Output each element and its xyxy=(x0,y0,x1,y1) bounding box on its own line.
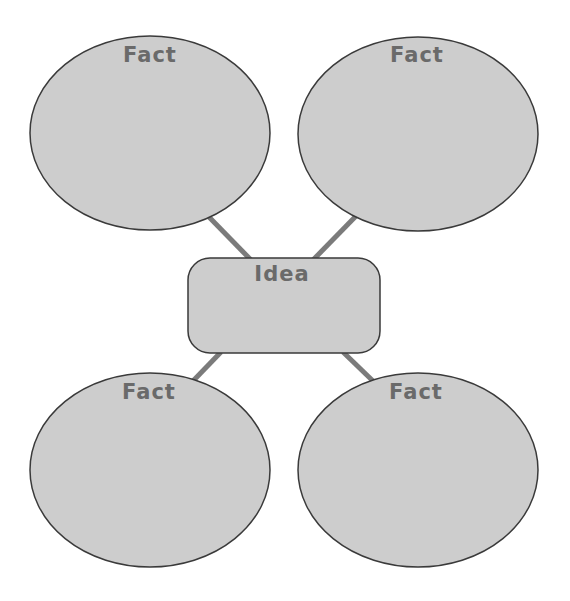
fact-label-top-right: Fact xyxy=(357,44,477,66)
idea-label: Idea xyxy=(222,263,342,285)
connector-top-left xyxy=(209,217,251,260)
connector-top-right xyxy=(313,215,357,260)
fact-label-bottom-right: Fact xyxy=(356,381,476,403)
idea-web-diagram xyxy=(0,0,570,601)
fact-label-bottom-left: Fact xyxy=(89,381,209,403)
connector-bottom-right xyxy=(343,352,374,382)
connector-bottom-left xyxy=(193,352,221,381)
fact-label-top-left: Fact xyxy=(90,44,210,66)
